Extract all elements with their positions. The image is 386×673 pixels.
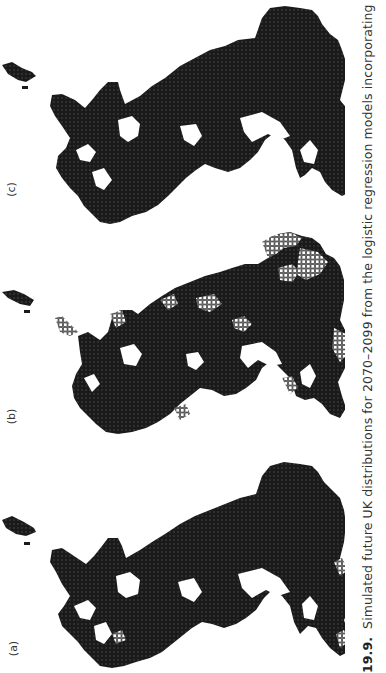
caption-text: Simulated future UK distributions for 20… bbox=[360, 0, 375, 629]
panel-label-a: (a) bbox=[7, 641, 20, 656]
figure-19-9: (c) (b) bbox=[0, 0, 386, 673]
uk-distribution-map-b bbox=[0, 228, 345, 438]
uk-distribution-map-c bbox=[0, 0, 345, 225]
panel-label-b: (b) bbox=[5, 409, 18, 425]
panel-label-c: (c) bbox=[5, 182, 18, 197]
figure-number: 19.9. bbox=[360, 637, 375, 673]
map-panel-b: (b) bbox=[0, 228, 345, 438]
map-panel-c: (c) bbox=[0, 0, 345, 225]
uk-distribution-map-a bbox=[0, 458, 345, 673]
map-panel-a: (a) bbox=[0, 458, 345, 673]
figure-caption: 19.9.Simulated future UK distributions f… bbox=[356, 0, 380, 673]
